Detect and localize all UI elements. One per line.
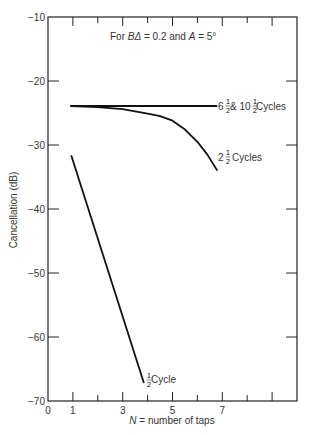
x-tick-label: 0	[45, 405, 51, 416]
svg-text:Cycles: Cycles	[256, 101, 286, 112]
x-tick-label: 3	[120, 405, 126, 416]
label-6-10-cycles: 6 1 2 & 10 1 2 Cycles	[218, 98, 286, 114]
y-tick-labels: −10−20−30−40−50−60−70	[28, 12, 45, 407]
y-tick-label: −40	[28, 204, 45, 215]
series-line-1	[70, 106, 217, 171]
y-tick-label: −30	[28, 140, 45, 151]
svg-text:1: 1	[226, 149, 230, 156]
svg-text:2: 2	[226, 158, 230, 165]
svg-text:Cycles: Cycles	[232, 152, 262, 163]
chart-annotation: For BΔ = 0.2 and A = 5°	[110, 31, 216, 42]
y-axis-title: Cancellation (dB)	[8, 172, 19, 249]
data-series	[70, 106, 217, 383]
label-half-cycle: 1 2 Cycle	[147, 372, 177, 388]
svg-text:& 10: & 10	[230, 101, 251, 112]
label-2-cycles: 2 1 2 Cycles	[218, 149, 262, 165]
svg-text:Cycle: Cycle	[151, 374, 176, 385]
y-tick-label: −70	[28, 396, 45, 407]
series-line-2	[71, 155, 144, 383]
plot-frame	[48, 17, 297, 401]
x-axis-title: N = number of taps	[129, 415, 214, 426]
svg-text:2: 2	[218, 152, 224, 163]
svg-text:6: 6	[218, 101, 224, 112]
x-tick-label: 7	[220, 405, 226, 416]
cancellation-chart: −10−20−30−40−50−60−70 01357 For BΔ = 0.2…	[0, 0, 310, 435]
y-tick-label: −10	[28, 12, 45, 23]
y-tick-label: −50	[28, 268, 45, 279]
axis-ticks	[48, 17, 297, 401]
x-tick-label: 1	[70, 405, 76, 416]
y-tick-label: −60	[28, 332, 45, 343]
y-tick-label: −20	[28, 76, 45, 87]
